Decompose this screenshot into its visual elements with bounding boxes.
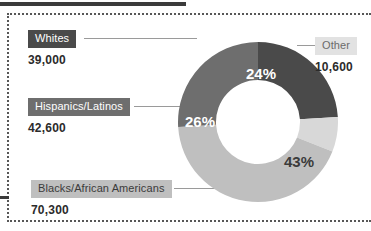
- callout-whites[interactable]: Whites 39,000: [28, 28, 76, 67]
- callout-label-hispanics: Hispanics/Latinos: [28, 98, 130, 116]
- callout-value-blacks: 70,300: [31, 203, 172, 217]
- infographic-donut-chart: 24% 7% 43% 26% Whites 39,000 Hispanics/L…: [0, 0, 371, 231]
- slice-percent-other: 7%: [300, 97, 322, 114]
- callout-label-whites: Whites: [28, 30, 76, 48]
- callout-value-whites: 39,000: [28, 53, 76, 67]
- callout-hispanics[interactable]: Hispanics/Latinos 42,600: [28, 96, 130, 135]
- slice-percent-blacks: 43%: [284, 153, 314, 170]
- callout-label-other: Other: [315, 37, 357, 55]
- leader-line-whites: [84, 38, 197, 39]
- frame-left-tick-mark: [0, 196, 9, 199]
- callout-blacks[interactable]: Blacks/African Americans 70,300: [31, 178, 172, 217]
- slice-percent-hispanics: 26%: [185, 113, 215, 130]
- donut-graphic: 24% 7% 43% 26%: [178, 42, 338, 202]
- top-rule-divider: [0, 2, 186, 6]
- slice-percent-whites: 24%: [246, 65, 276, 82]
- callout-value-other: 10,600: [315, 60, 357, 74]
- callout-value-hispanics: 42,600: [28, 121, 130, 135]
- callout-label-blacks: Blacks/African Americans: [31, 180, 172, 198]
- callout-other[interactable]: Other 10,600: [315, 35, 357, 74]
